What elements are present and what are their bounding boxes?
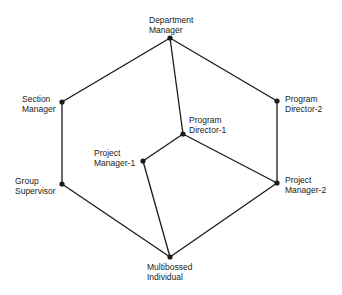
label-group-supervisor: Group Supervisor <box>15 176 56 196</box>
node-dot-pm2 <box>274 180 279 185</box>
label-line: Section <box>22 94 56 104</box>
label-line: Group <box>15 176 56 186</box>
node-dot-pd2 <box>274 98 279 103</box>
label-project-manager-2: Project Manager-2 <box>285 175 326 195</box>
label-multibossed-individual: Multibossed Individual <box>147 262 192 282</box>
label-line: Manager-1 <box>94 158 135 168</box>
label-line: Program <box>285 94 322 104</box>
label-line: Project <box>285 175 326 185</box>
label-line: Multibossed <box>147 262 192 272</box>
node-dot-group <box>59 181 64 186</box>
org-diagram <box>0 0 342 295</box>
label-line: Program <box>189 115 226 125</box>
label-line: Manager <box>22 104 56 114</box>
edge-pd1-pm2 <box>183 134 277 183</box>
edge-pm1-multi <box>143 161 170 257</box>
node-dot-pm1 <box>140 158 145 163</box>
edge-pd1-pm1 <box>143 134 183 161</box>
label-project-manager-1: Project Manager-1 <box>94 148 135 168</box>
label-line: Director-1 <box>189 125 226 135</box>
node-dot-section <box>59 99 64 104</box>
label-section-manager: Section Manager <box>22 94 56 114</box>
edge-dept-pd1 <box>170 38 183 134</box>
label-line: Director-2 <box>285 104 322 114</box>
label-line: Manager-2 <box>285 185 326 195</box>
edge-pm2-multi <box>170 183 277 257</box>
edge-group-multi <box>62 184 170 257</box>
label-department-manager: Department Manager <box>149 15 193 35</box>
node-dot-pd1 <box>180 131 185 136</box>
edge-dept-pd2 <box>170 38 277 101</box>
node-dot-dept <box>167 35 172 40</box>
label-line: Project <box>94 148 135 158</box>
label-line: Manager <box>149 25 193 35</box>
label-program-director-1: Program Director-1 <box>189 115 226 135</box>
label-line: Supervisor <box>15 186 56 196</box>
edge-dept-section <box>62 38 170 102</box>
label-line: Individual <box>147 272 192 282</box>
node-dot-multi <box>167 254 172 259</box>
label-line: Department <box>149 15 193 25</box>
label-program-director-2: Program Director-2 <box>285 94 322 114</box>
nodes <box>59 35 279 259</box>
